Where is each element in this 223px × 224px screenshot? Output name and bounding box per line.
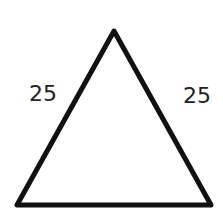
- triangle-diagram: 25 25: [0, 0, 223, 224]
- triangle: [17, 31, 211, 205]
- right-side-label: 25: [183, 83, 211, 108]
- left-side-label: 25: [29, 81, 57, 106]
